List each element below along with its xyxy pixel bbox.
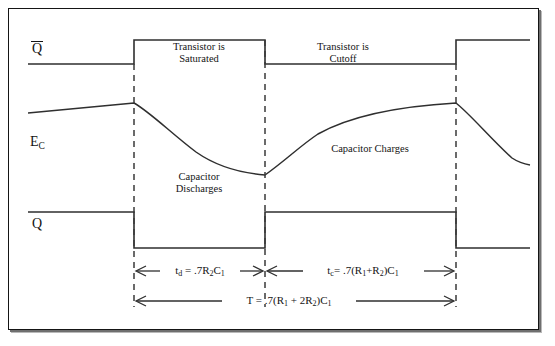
annotation-saturated-line2: Saturated (173, 53, 225, 65)
annotation-capacitor-discharges: Capacitor Discharges (176, 171, 222, 196)
equation-T-mid: + 2R (288, 294, 313, 306)
annotation-saturated-line1: Transistor is (173, 41, 225, 53)
equation-td-sub2: 1 (221, 269, 225, 278)
axis-label-q-text: Q (32, 216, 42, 231)
axis-label-ec-subscript: C (39, 141, 45, 151)
equation-T-expr: .7(R (265, 294, 284, 306)
equation-T-sub3: 1 (328, 299, 332, 308)
annotation-transistor-cutoff: Transistor is Cutoff (317, 41, 369, 66)
annotation-discharge-line2: Discharges (176, 183, 222, 195)
axis-label-qbar-text: Q (31, 41, 43, 57)
annotation-capacitor-charges: Capacitor Charges (331, 143, 409, 155)
waveform-qbar (28, 40, 530, 64)
axis-label-ec-text: E (30, 134, 39, 149)
axis-label-q: Q (32, 216, 42, 233)
equation-tc-rel: = (334, 264, 343, 276)
equation-tc-tail: )C (384, 264, 395, 276)
equation-tc: tc= .7(R1+R2)C1 (327, 264, 398, 279)
equation-td-rel: = (182, 264, 194, 276)
equation-T: T = .7(R1 + 2R2)C1 (246, 294, 331, 309)
annotation-transistor-saturated: Transistor is Saturated (173, 41, 225, 66)
waveform-ec (28, 103, 530, 175)
annotation-discharge-line1: Capacitor (176, 171, 222, 183)
equation-tc-mid: +R (366, 264, 380, 276)
equation-T-tail: )C (317, 294, 328, 306)
axis-label-qbar: Q (31, 41, 43, 58)
annotation-cutoff-line1: Transistor is (317, 41, 369, 53)
annotation-cutoff-line2: Cutoff (317, 53, 369, 65)
equation-tc-sub3: 1 (395, 269, 399, 278)
equation-T-rel: = (253, 294, 265, 306)
annotation-charge-text: Capacitor Charges (331, 143, 409, 155)
equation-td-mid: C (214, 264, 221, 276)
equation-td-expr: .7R (194, 264, 210, 276)
axis-label-ec: EC (30, 134, 45, 152)
equation-tc-expr: .7(R (343, 264, 362, 276)
waveform-q (28, 212, 530, 248)
equation-td: td = .7R2C1 (175, 264, 225, 279)
diagram-stage: Q EC Q Transistor is Saturated Transisto… (0, 0, 555, 346)
